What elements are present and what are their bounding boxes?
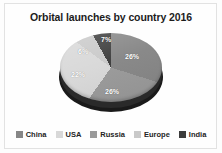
legend-label-india: India (189, 130, 207, 139)
legend-item-usa[interactable]: USA (56, 130, 82, 139)
slice-label-usa: 22% (71, 71, 85, 78)
chart-screenshot: Orbital launches by country 2016 26% 26%… (0, 0, 222, 153)
legend-swatch-usa (56, 131, 63, 138)
legend-label-china: China (26, 130, 47, 139)
legend-label-europe: Europe (144, 130, 170, 139)
legend-label-usa: USA (66, 130, 82, 139)
slice-label-china: 26% (125, 53, 139, 60)
legend-item-china[interactable]: China (16, 130, 47, 139)
legend-item-europe[interactable]: Europe (134, 130, 170, 139)
pie-chart: 26% 26% 22% 6% 7% (59, 33, 163, 111)
legend-swatch-europe (134, 131, 141, 138)
chart-title: Orbital launches by country 2016 (0, 11, 222, 23)
legend-item-russia[interactable]: Russia (90, 130, 125, 139)
legend-label-russia: Russia (100, 130, 125, 139)
slice-label-europe: 6% (78, 48, 88, 55)
legend-item-india[interactable]: India (179, 130, 207, 139)
legend-swatch-china (16, 131, 23, 138)
slice-label-russia: 26% (105, 88, 119, 95)
chart-legend: China USA Russia Europe India (6, 126, 216, 143)
slice-label-india: 7% (101, 36, 111, 43)
legend-swatch-russia (90, 131, 97, 138)
legend-swatch-india (179, 131, 186, 138)
